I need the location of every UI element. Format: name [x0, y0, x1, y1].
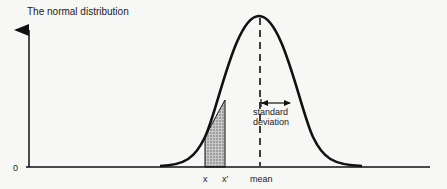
x-prime-label: x′: [222, 174, 229, 184]
arrow-left-icon: [261, 100, 268, 106]
arrow-right-icon: [284, 100, 291, 106]
normal-curve: [160, 16, 362, 166]
std-dev-label-1: standard: [253, 107, 288, 117]
chart-title: The normal distribution: [27, 6, 129, 17]
normal-distribution-diagram: The normal distribution 0 x x′ mean stan…: [0, 0, 447, 189]
origin-label: 0: [13, 163, 18, 173]
x-label: x: [203, 174, 208, 184]
std-dev-label-2: deviation: [253, 117, 289, 127]
mean-label: mean: [250, 174, 273, 184]
